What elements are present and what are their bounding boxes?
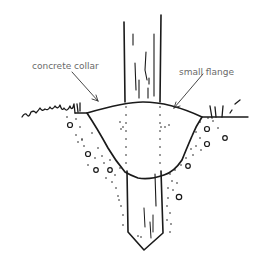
- arrow-small-flange: [174, 74, 203, 108]
- label-concrete-collar: concrete collar: [32, 62, 99, 71]
- arrow-concrete-collar: [72, 72, 98, 101]
- soil-pebbles: [68, 123, 228, 200]
- concrete-collar-outline: [87, 102, 202, 179]
- ground-right: [202, 100, 248, 118]
- wooden-post: [124, 15, 161, 102]
- ground-left: [22, 103, 87, 117]
- label-small-flange: small flange: [179, 68, 234, 77]
- post-illustration: [0, 0, 267, 279]
- post-below-ground: [127, 171, 163, 250]
